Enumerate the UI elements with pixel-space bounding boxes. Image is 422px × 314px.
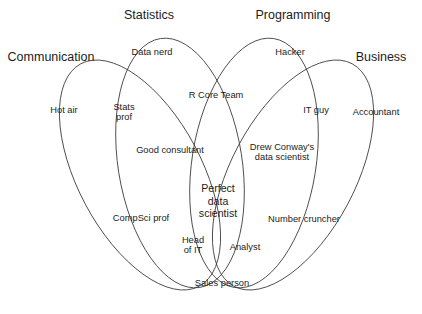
- venn-ellipses-canvas: [0, 0, 422, 314]
- ellipse-programming: [173, 29, 335, 297]
- venn-diagram: Communication Statistics Programming Bus…: [0, 0, 422, 314]
